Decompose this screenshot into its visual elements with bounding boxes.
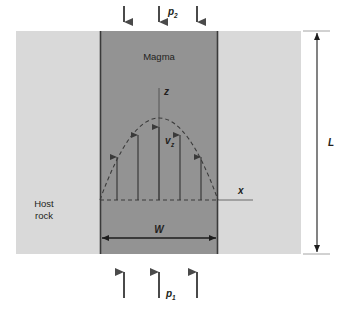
magma-label: Magma — [143, 51, 175, 62]
p2-label-subscript: 2 — [173, 12, 178, 19]
p1-label-subscript: 1 — [172, 294, 176, 301]
width-dimension-label: W — [154, 224, 165, 235]
host-rock-label-line2: rock — [35, 210, 53, 221]
magma-dike-diagram: p 2 p 1 Magma Host rock z x v — [0, 0, 345, 320]
x-axis-label: x — [237, 185, 244, 196]
length-dimension-label: L — [328, 137, 334, 148]
host-rock-label-line1: Host — [34, 198, 54, 209]
z-axis-label: z — [163, 86, 169, 97]
